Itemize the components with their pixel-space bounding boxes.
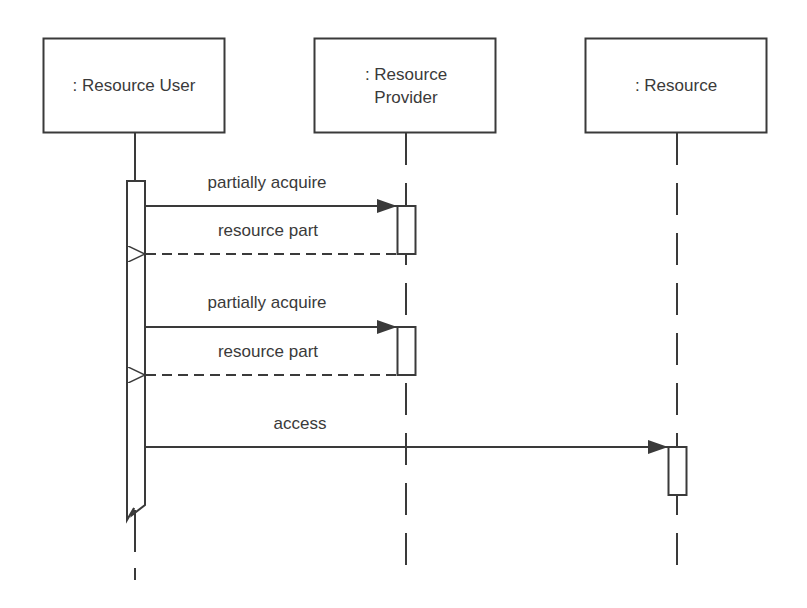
message-label: resource part (218, 342, 318, 361)
lifeline-head-resource-provider (315, 39, 496, 133)
sequence-diagram: : Resource User : Resource Provider : Re… (0, 0, 807, 608)
activation-bar-provider-2 (398, 327, 416, 375)
lifeline-label-resource: : Resource (635, 76, 717, 95)
message-label: access (274, 414, 327, 433)
message-label: resource part (218, 221, 318, 240)
message-resource-part-1: resource part (146, 221, 397, 254)
activation-bar-resource-user (127, 181, 145, 520)
lifeline-label-resource-user: : Resource User (73, 76, 196, 95)
message-label: partially acquire (207, 173, 326, 192)
message-partially-acquire-1: partially acquire (145, 173, 397, 206)
message-partially-acquire-2: partially acquire (145, 293, 397, 327)
message-resource-part-2: resource part (146, 342, 397, 375)
lifeline-label-resource-provider-line2: Provider (374, 88, 438, 107)
lifeline-resource-provider: : Resource Provider (315, 39, 496, 581)
lifeline-label-resource-provider-line1: : Resource (365, 65, 447, 84)
message-label: partially acquire (207, 293, 326, 312)
activation-bar-provider-1 (398, 206, 416, 254)
lifeline-resource: : Resource (586, 39, 767, 581)
activation-bar-resource (669, 447, 687, 495)
